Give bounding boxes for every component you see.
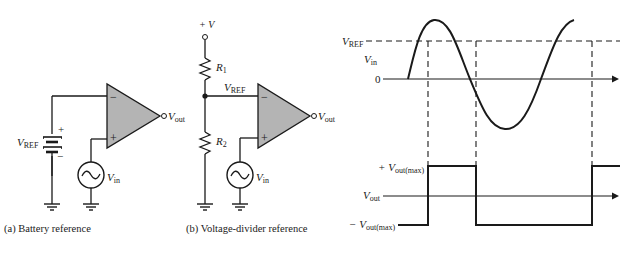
opamp-noninverting-sign: + <box>110 131 117 145</box>
vout-max-neg-label: − Vout(max) <box>349 218 396 232</box>
output-terminal <box>312 114 317 119</box>
ground-icon <box>197 204 213 210</box>
battery-reference-circuit: + − VREF − + Vout Vin (a) Battery refere… <box>4 84 186 235</box>
ground-icon <box>232 204 248 210</box>
caption-b: (b) Voltage-divider reference <box>186 223 308 235</box>
vout-label: Vout <box>318 110 336 124</box>
resistor-r2-icon <box>200 132 210 154</box>
r1-label: R1 <box>215 61 227 75</box>
axis-arrow-icon <box>612 76 619 83</box>
vref-label: VREF <box>17 136 39 150</box>
vin-axis-label: Vin <box>364 53 377 67</box>
vout-label: Vout <box>168 110 186 124</box>
output-terminal <box>162 114 167 119</box>
vref-label: VREF <box>224 81 246 95</box>
waveform-plot: VREF Vin 0 + Vout(max) Vout − Vout(max) <box>342 20 620 232</box>
battery-plus-sign: + <box>58 123 64 135</box>
voltage-divider-reference-circuit: + V R1 VREF R2 − + Vout Vin <box>186 19 336 235</box>
vout-max-pos-label: + Vout(max) <box>378 161 425 175</box>
supply-label: + V <box>199 19 216 30</box>
vref-axis-label: VREF <box>342 35 364 49</box>
battery-minus-sign: − <box>57 150 63 162</box>
axis-arrow-icon <box>612 193 619 200</box>
vout-axis-label: Vout <box>363 189 381 203</box>
vin-label: Vin <box>107 171 120 185</box>
opamp-inverting-sign: − <box>261 90 268 104</box>
r2-label: R2 <box>215 135 227 149</box>
ground-icon <box>44 204 60 210</box>
caption-a: (a) Battery reference <box>4 223 91 235</box>
zero-label: 0 <box>375 73 381 85</box>
vin-label: Vin <box>256 171 269 185</box>
opamp-noninverting-sign: + <box>261 131 268 145</box>
resistor-r1-icon <box>200 58 210 80</box>
ground-icon <box>83 204 99 210</box>
opamp-inverting-sign: − <box>110 90 117 104</box>
vin-sine-wave <box>408 20 574 129</box>
figure-canvas: + − VREF − + Vout Vin (a) Battery refere… <box>0 0 638 254</box>
supply-terminal <box>203 35 208 40</box>
